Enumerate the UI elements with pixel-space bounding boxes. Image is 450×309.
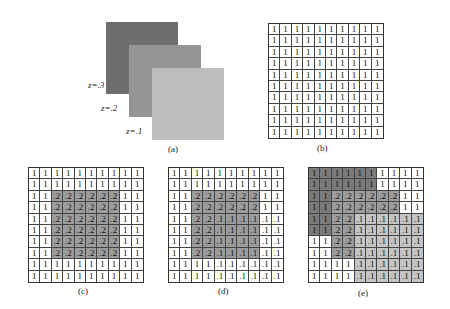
grid-cell: 1 bbox=[192, 259, 203, 270]
grid-cell: .2 bbox=[192, 191, 203, 202]
grid-cell: .1 bbox=[400, 248, 411, 259]
grid-cell: 1 bbox=[292, 127, 303, 138]
grid-cell: .2 bbox=[192, 236, 203, 247]
layer-z1-square bbox=[152, 68, 224, 140]
grid-cell: .2 bbox=[52, 202, 63, 213]
grid-cell: .2 bbox=[75, 225, 86, 236]
grid-cell: 1 bbox=[52, 168, 63, 179]
grid-cell: .2 bbox=[63, 248, 74, 259]
grid-cell: .1 bbox=[215, 248, 226, 259]
grid-cell: 1 bbox=[272, 168, 283, 179]
grid-cell: .1 bbox=[366, 236, 377, 247]
grid-cell: .2 bbox=[377, 202, 388, 213]
grid-cell: 1 bbox=[326, 35, 337, 46]
grid-cell: .1 bbox=[377, 271, 388, 282]
grid-cell: .2 bbox=[192, 225, 203, 236]
grid-cell: 1 bbox=[132, 248, 143, 259]
grid-cell: 1 bbox=[372, 70, 383, 81]
grid-cell: 1 bbox=[280, 115, 291, 126]
grid-cell: 1 bbox=[29, 248, 40, 259]
grid-cell: 1 bbox=[269, 58, 280, 69]
grid-cell: 1 bbox=[269, 24, 280, 35]
grid-cell: 1 bbox=[132, 271, 143, 282]
grid-cell: 1 bbox=[203, 168, 214, 179]
grid-cell: 1 bbox=[315, 127, 326, 138]
grid-cell: 1 bbox=[412, 179, 423, 190]
grid-cell: 1 bbox=[292, 92, 303, 103]
caption-b: (b) bbox=[317, 143, 328, 153]
grid-cell: 1 bbox=[280, 104, 291, 115]
grid-cell: 1 bbox=[320, 214, 331, 225]
grid-cell: 1 bbox=[40, 179, 51, 190]
grid-cell: .1 bbox=[237, 271, 248, 282]
grid-cell: 1 bbox=[309, 179, 320, 190]
grid-cell: .2 bbox=[52, 236, 63, 247]
grid-cell: 1 bbox=[332, 259, 343, 270]
grid-cell: 1 bbox=[169, 259, 180, 270]
grid-cell: 1 bbox=[180, 191, 191, 202]
grid-cell: 1 bbox=[109, 259, 120, 270]
grid-cell: .1 bbox=[400, 225, 411, 236]
grid-cell: 1 bbox=[63, 259, 74, 270]
grid-cell: 1 bbox=[192, 271, 203, 282]
grid-cell: .2 bbox=[203, 214, 214, 225]
grid-cell: 1 bbox=[320, 179, 331, 190]
grid-cell: .2 bbox=[75, 214, 86, 225]
grid-cell: .2 bbox=[86, 191, 97, 202]
grid-cell: 1 bbox=[40, 225, 51, 236]
grid-cell: 1 bbox=[337, 92, 348, 103]
grid-cell: .2 bbox=[332, 236, 343, 247]
grid-cell: 1 bbox=[203, 259, 214, 270]
grid-cell: 1 bbox=[132, 214, 143, 225]
grid-cell: 1 bbox=[97, 259, 108, 270]
grid-cell: .2 bbox=[203, 236, 214, 247]
grid-cell: .2 bbox=[75, 248, 86, 259]
grid-cell: .2 bbox=[86, 225, 97, 236]
grid-cell: 1 bbox=[132, 168, 143, 179]
grid-cell: .1 bbox=[412, 271, 423, 282]
grid-cell: 1 bbox=[326, 81, 337, 92]
grid-cell: 1 bbox=[349, 115, 360, 126]
grid-cell: 1 bbox=[360, 35, 371, 46]
grid-cell: 1 bbox=[269, 104, 280, 115]
grid-cell: .2 bbox=[63, 236, 74, 247]
grid-cell: .2 bbox=[109, 202, 120, 213]
grid-cell: .1 bbox=[377, 225, 388, 236]
grid-cell: .2 bbox=[52, 248, 63, 259]
grid-cell: 1 bbox=[303, 127, 314, 138]
grid-cell: .1 bbox=[377, 236, 388, 247]
grid-cell: 1 bbox=[320, 259, 331, 270]
grid-cell: 1 bbox=[260, 202, 271, 213]
grid-cell: 1 bbox=[269, 47, 280, 58]
grid-cell: .2 bbox=[237, 191, 248, 202]
grid-cell: 1 bbox=[120, 248, 131, 259]
grid-cell: .1 bbox=[412, 248, 423, 259]
grid-cell: .1 bbox=[355, 248, 366, 259]
grid-cell: .1 bbox=[260, 271, 271, 282]
grid-cell: 1 bbox=[315, 81, 326, 92]
grid-cell: 1 bbox=[326, 127, 337, 138]
grid-cell: 1 bbox=[320, 271, 331, 282]
grid-cell: 1 bbox=[349, 81, 360, 92]
grid-cell: 1 bbox=[372, 58, 383, 69]
grid-cell: .2 bbox=[97, 248, 108, 259]
grid-cell: 1 bbox=[120, 202, 131, 213]
grid-cell: 1 bbox=[40, 214, 51, 225]
grid-cell: .1 bbox=[400, 259, 411, 270]
grid-cell: .1 bbox=[366, 225, 377, 236]
grid-cell: 1 bbox=[320, 236, 331, 247]
grid-cell: 1 bbox=[303, 47, 314, 58]
grid-cell: .2 bbox=[226, 202, 237, 213]
grid-cell: 1 bbox=[292, 35, 303, 46]
grid-cell: 1 bbox=[169, 179, 180, 190]
grid-cell: 1 bbox=[272, 202, 283, 213]
grid-cell: 1 bbox=[63, 168, 74, 179]
grid-cell: 1 bbox=[360, 24, 371, 35]
grid-cell: 1 bbox=[120, 236, 131, 247]
grid-cell: 1 bbox=[349, 58, 360, 69]
grid-cell: .2 bbox=[249, 202, 260, 213]
grid-cell: 1 bbox=[303, 104, 314, 115]
grid-cell: 1 bbox=[97, 271, 108, 282]
grid-cell: 1 bbox=[203, 271, 214, 282]
grid-cell: 1 bbox=[315, 35, 326, 46]
